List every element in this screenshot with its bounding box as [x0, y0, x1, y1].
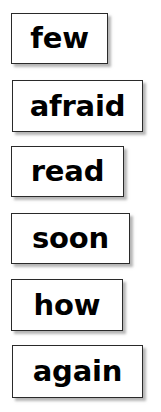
- word-card[interactable]: afraid: [12, 80, 143, 132]
- word-card[interactable]: read: [11, 146, 124, 197]
- word-card-sheet: few afraid read soon how again: [0, 0, 161, 412]
- word-card-label: few: [30, 24, 88, 53]
- word-card-label: afraid: [30, 92, 126, 121]
- word-card-label: again: [33, 357, 122, 386]
- word-card-label: read: [31, 157, 105, 186]
- word-card[interactable]: again: [12, 345, 143, 398]
- word-card[interactable]: few: [11, 13, 108, 64]
- word-card[interactable]: how: [11, 279, 123, 331]
- word-card-label: how: [34, 291, 101, 320]
- word-card[interactable]: soon: [11, 213, 130, 264]
- word-card-label: soon: [32, 224, 109, 253]
